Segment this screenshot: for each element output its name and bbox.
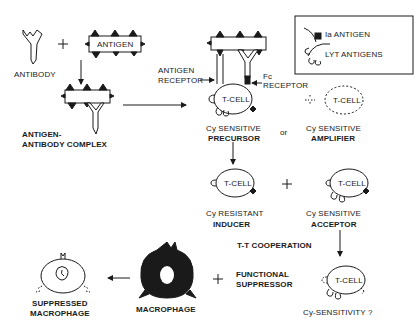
functional-suppressor-label-2: SUPPRESSOR xyxy=(236,280,293,289)
inducer-label-2: INDUCER xyxy=(213,220,250,229)
precursor-label-2: PRECURSOR xyxy=(208,134,260,143)
fc-receptor-label-1: Fc xyxy=(263,72,272,81)
precursor-label-1: Cy SENSITIVE xyxy=(206,124,261,133)
complex-label-1: ANTIGEN- xyxy=(22,130,61,139)
acceptor-label-2: ACCEPTOR xyxy=(311,220,357,229)
macrophage-label: MACROPHAGE xyxy=(136,305,196,314)
antigen-label: ANTIGEN xyxy=(97,40,133,49)
complex-label-2: ANTIBODY COMPLEX xyxy=(22,140,107,149)
cy-sensitivity-label: Cy-SENSITIVITY ? xyxy=(303,308,372,317)
functional-suppressor-label-1: FUNCTIONAL xyxy=(236,270,289,279)
tcell-label-acceptor: T-CELL xyxy=(338,179,366,188)
antibody-icon xyxy=(23,30,42,64)
acceptor-label-1: Cy SENSITIVE xyxy=(306,209,361,218)
legend-lyt-antigens: LYT ANTIGENS xyxy=(325,50,383,59)
legend-ia-antigen: Ia ANTIGEN xyxy=(325,30,370,39)
tcell-label-amplifier: T-CELL xyxy=(333,96,361,105)
macrophage-icon xyxy=(139,242,196,298)
antibody-label: ANTIBODY xyxy=(14,70,56,79)
tcell-label-inducer: T-CELL xyxy=(224,179,252,188)
amplifier-label-2: AMPLIFIER xyxy=(311,134,355,143)
fc-receptor-label-2: RECEPTOR xyxy=(263,81,308,90)
tcell-label-precursor: T-CELL xyxy=(222,95,250,104)
antigen-antibody-complex-icon xyxy=(61,84,114,134)
or-label: or xyxy=(280,128,287,137)
antigen-receptor-label-1: ANTIGEN xyxy=(158,66,194,75)
immune-suppression-diagram: ANTIBODY ANTIGEN ANTIGEN- ANTIBODY COMPL… xyxy=(0,0,414,333)
suppressed-macrophage-label-1: SUPPRESSED xyxy=(32,299,88,308)
inducer-label-1: Cy RESISTANT xyxy=(206,209,264,218)
antigen-receptor-label-2: RECEPTOR xyxy=(158,76,203,85)
amplifier-label-1: Cy SENSITIVE xyxy=(306,124,361,133)
precursor-complex-icon xyxy=(207,31,266,84)
suppressed-macrophage-label-2: MACROPHAGE xyxy=(30,309,90,318)
tcell-label-suppressor: T-CELL xyxy=(335,276,363,285)
suppressed-macrophage-icon xyxy=(36,253,90,293)
t-t-cooperation-label: T-T COOPERATION xyxy=(237,241,312,250)
